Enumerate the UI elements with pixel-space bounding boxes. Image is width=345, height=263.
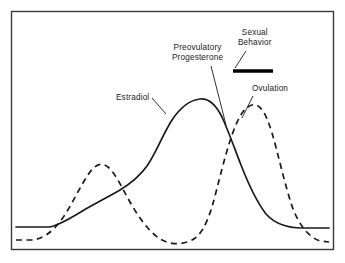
label-progesterone-line2: Progesterone [172, 53, 223, 62]
label-estradiol: Estradiol [116, 93, 149, 103]
label-progesterone-line1: Preovulatory [174, 43, 222, 52]
hormone-cycle-figure: Estradiol PreovulatoryProgesterone Sexua… [0, 0, 345, 263]
label-sexual-behavior: SexualBehavior [238, 28, 272, 48]
plot-canvas [0, 0, 345, 263]
label-sexual-behavior-line2: Behavior [238, 38, 272, 47]
label-sexual-behavior-line1: Sexual [242, 28, 268, 37]
label-preovulatory-progesterone: PreovulatoryProgesterone [172, 43, 223, 63]
label-ovulation: Ovulation [252, 84, 288, 94]
